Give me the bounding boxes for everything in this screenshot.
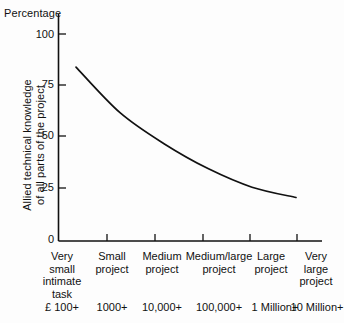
percentage-vs-project-size-chart: Percentage Allied technical knowledge of…	[0, 0, 344, 323]
x-cat-1-line-1: project	[84, 263, 140, 276]
x-cat-5-line-1: large	[288, 263, 344, 276]
x-cat-0-line-2: intimate	[34, 275, 90, 288]
cost-label-5: 10 Million+	[283, 301, 344, 313]
x-cat-1-line-0: Small	[84, 250, 140, 263]
x-cat-0-line-1: small	[34, 263, 90, 276]
x-category-very-large-project: Very large project	[288, 250, 344, 288]
x-cat-0-line-3: task	[34, 288, 90, 301]
x-category-very-small-intimate-task: Very small intimate task	[34, 250, 90, 300]
x-cat-5-line-0: Very	[288, 250, 344, 263]
x-category-small-project: Small project	[84, 250, 140, 275]
x-cat-5-line-2: project	[288, 275, 344, 288]
knowledge-decay-curve	[76, 67, 296, 197]
x-cat-0-line-0: Very	[34, 250, 90, 263]
